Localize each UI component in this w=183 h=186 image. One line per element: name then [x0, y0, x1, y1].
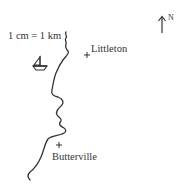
north-label: N	[168, 14, 174, 22]
scale-label: 1 cm = 1 km	[8, 31, 61, 42]
littleton-marker-icon	[84, 52, 90, 58]
map-diagram: 1 cm = 1 km N Littleton Butterville	[0, 0, 183, 186]
butterville-marker-icon	[56, 142, 62, 148]
north-arrow-icon	[159, 17, 166, 34]
sailboat-icon	[33, 56, 47, 70]
place-label-butterville: Butterville	[52, 152, 97, 163]
place-label-littleton: Littleton	[91, 44, 127, 55]
